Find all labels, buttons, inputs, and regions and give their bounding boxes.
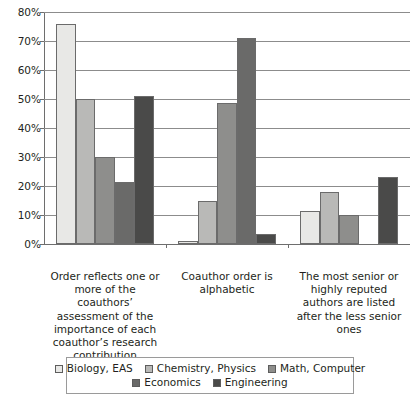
x-axis-category-label: Order reflects one or more of the coauth…: [48, 270, 162, 362]
y-axis-tick-label: 60%: [1, 65, 41, 75]
axis-area: [44, 12, 410, 244]
bar-biology-eas: [56, 24, 76, 244]
bar-chemistry-physics: [198, 201, 218, 245]
legend: Biology, EASChemistry, PhysicsMath, Comp…: [66, 357, 354, 394]
bar-chemistry-physics: [320, 192, 340, 244]
y-axis-tick-label: 40%: [1, 123, 41, 133]
legend-swatch-icon: [145, 365, 153, 373]
bar-math-computer: [95, 157, 115, 244]
legend-item-math-computer[interactable]: Math, Computer: [268, 363, 365, 374]
bar-biology-eas: [178, 241, 198, 244]
x-axis-category-label: Coauthor order is alphabetic: [170, 270, 284, 296]
y-axis-tick-label: 0%: [1, 239, 41, 249]
legend-item-economics[interactable]: Economics: [132, 377, 200, 388]
category-separator: [288, 244, 289, 248]
plot-area: 0%10%20%30%40%50%60%70%80%: [0, 0, 418, 268]
bar-chemistry-physics: [76, 99, 96, 244]
bar-chart: 0%10%20%30%40%50%60%70%80% Order reflect…: [0, 0, 418, 417]
legend-label: Math, Computer: [280, 363, 365, 374]
legend-swatch-icon: [55, 365, 63, 373]
bar-biology-eas: [300, 211, 320, 244]
x-axis-category-labels: Order reflects one or more of the coauth…: [44, 270, 410, 352]
legend-swatch-icon: [132, 379, 140, 387]
bar-economics: [115, 182, 135, 244]
y-axis-tick-label: 20%: [1, 181, 41, 191]
y-axis-tick-labels: 0%10%20%30%40%50%60%70%80%: [0, 0, 41, 268]
legend-item-chemistry-physics[interactable]: Chemistry, Physics: [145, 363, 256, 374]
y-axis-tick-label: 30%: [1, 152, 41, 162]
legend-label: Economics: [144, 377, 200, 388]
bar-math-computer: [217, 103, 237, 244]
x-axis-category-label: The most senior or highly reputed author…: [292, 270, 406, 336]
y-axis-tick-label: 50%: [1, 94, 41, 104]
y-axis-tick-label: 70%: [1, 36, 41, 46]
bars-layer: [44, 12, 410, 244]
bar-group: [44, 12, 166, 244]
legend-label: Engineering: [225, 377, 288, 388]
bar-group: [166, 12, 288, 244]
bar-group: [288, 12, 410, 244]
y-axis-tick-mark: [40, 244, 44, 245]
category-separator: [166, 244, 167, 248]
y-axis-tick-label: 10%: [1, 210, 41, 220]
baseline: [44, 244, 410, 245]
bar-engineering: [256, 234, 276, 244]
legend-item-engineering[interactable]: Engineering: [213, 377, 288, 388]
y-axis-tick-label: 80%: [1, 7, 41, 17]
legend-swatch-icon: [268, 365, 276, 373]
bar-economics: [237, 38, 257, 244]
bar-math-computer: [339, 215, 359, 244]
legend-swatch-icon: [213, 379, 221, 387]
legend-row-2: EconomicsEngineering: [71, 377, 349, 388]
legend-item-biology-eas[interactable]: Biology, EAS: [55, 363, 133, 374]
bar-engineering: [134, 96, 154, 244]
legend-label: Biology, EAS: [67, 363, 133, 374]
legend-label: Chemistry, Physics: [157, 363, 256, 374]
legend-row-1: Biology, EASChemistry, PhysicsMath, Comp…: [71, 363, 349, 374]
bar-engineering: [378, 177, 398, 244]
